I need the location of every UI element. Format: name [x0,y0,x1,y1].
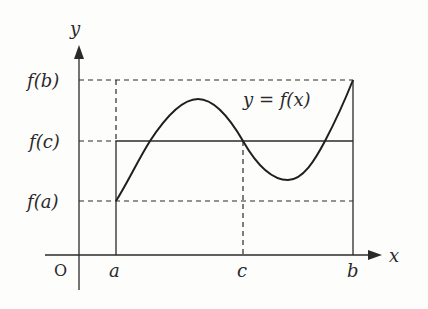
tick-label-fb: f(b) [25,70,59,91]
curve-label: y = f(x) [242,89,311,110]
diagram-canvas: y x O a c b f(b) f(c) f(a) y = f(x) [0,0,428,309]
ivt-diagram: y x O a c b f(b) f(c) f(a) y = f(x) [0,0,428,309]
solid-lines [116,80,353,255]
axes [45,56,372,290]
tick-label-b: b [347,260,359,281]
x-axis-label: x [389,245,399,266]
tick-label-fa: f(a) [25,191,58,212]
origin-label: O [54,261,67,280]
tick-label-fc: f(c) [27,131,60,152]
tick-label-a: a [109,260,120,281]
y-axis-arrow-icon [74,45,84,59]
tick-label-c: c [237,260,247,281]
y-axis-label: y [69,18,81,39]
x-axis-arrow-icon [368,250,382,260]
